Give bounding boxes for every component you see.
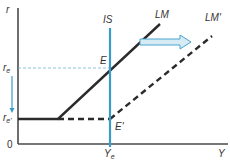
- lm-label: LM: [155, 10, 169, 20]
- lm-curve: [18, 24, 160, 119]
- x-axis-label: Y: [218, 149, 225, 159]
- lm-prime-curve: [110, 36, 212, 119]
- y-e-label: Ye: [104, 149, 115, 160]
- lm-prime-label: LM': [205, 13, 221, 23]
- is-label: IS: [103, 15, 112, 25]
- origin-label: 0: [7, 140, 13, 150]
- point-e-prime-label: E': [115, 122, 124, 132]
- r-e-label: re: [3, 63, 10, 74]
- y-axis-label: r: [6, 5, 9, 15]
- r-e-prime-label: re': [3, 113, 12, 124]
- point-e-label: E: [100, 56, 107, 66]
- is-lm-diagram: [0, 0, 230, 162]
